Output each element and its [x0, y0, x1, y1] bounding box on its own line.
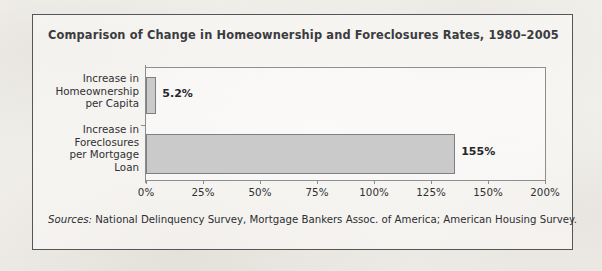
source-note-label: Sources: [48, 214, 92, 225]
bar-foreclosures [146, 134, 455, 174]
chart-title: Comparison of Change in Homeownership an… [48, 28, 559, 42]
x-axis-tick-label: 100% [359, 186, 388, 198]
x-axis-tick-mark [146, 180, 147, 184]
source-note: Sources: National Delinquency Survey, Mo… [48, 214, 577, 225]
x-axis-tick-label: 0% [138, 186, 154, 198]
x-axis-tick-label: 25% [192, 186, 215, 198]
category-label-homeownership: Increase in Homeownership per Capita [31, 72, 139, 110]
x-axis-tick-mark [431, 180, 432, 184]
x-axis-tick-label: 200% [530, 186, 559, 198]
x-axis-tick-mark [203, 180, 204, 184]
x-axis-tick-mark [545, 180, 546, 184]
category-separator-tick [141, 125, 146, 126]
source-note-text: National Delinquency Survey, Mortgage Ba… [92, 214, 577, 225]
bar-value-homeownership: 5.2% [162, 87, 193, 100]
bar-homeownership [146, 77, 156, 114]
x-axis-tick-label: 50% [249, 186, 272, 198]
x-axis-tick-mark [260, 180, 261, 184]
figure-frame: Comparison of Change in Homeownership an… [32, 14, 573, 250]
plot-area: Increase in Homeownership per Capita Inc… [146, 67, 546, 181]
x-axis-tick-label: 150% [473, 186, 502, 198]
bar-value-foreclosures: 155% [461, 145, 495, 158]
x-axis-tick-label: 75% [306, 186, 329, 198]
x-axis-tick-mark [374, 180, 375, 184]
x-axis-tick-mark [488, 180, 489, 184]
category-label-foreclosures: Increase in Foreclosures per Mortgage Lo… [31, 123, 139, 173]
x-axis-tick-label: 125% [416, 186, 445, 198]
x-axis-tick-mark [317, 180, 318, 184]
